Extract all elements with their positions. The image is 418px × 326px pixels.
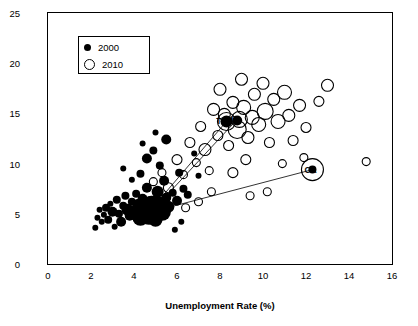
scatter-point-2010 xyxy=(185,138,195,148)
x-tick-label: 2 xyxy=(76,270,106,281)
scatter-point-2010 xyxy=(207,188,215,196)
scatter-point-2000 xyxy=(107,201,113,207)
scatter-point-2010 xyxy=(208,103,220,115)
scatter-point-2010 xyxy=(228,168,238,178)
scatter-point-2000 xyxy=(172,227,178,233)
x-tick-label: 8 xyxy=(205,270,235,281)
scatter-point-2000 xyxy=(161,135,171,145)
scatter-point-2000 xyxy=(112,224,118,230)
scatter-point-2000 xyxy=(92,225,98,231)
scatter-point-2010 xyxy=(163,183,173,193)
scatter-point-2010 xyxy=(236,73,248,85)
annotation-ca: CA xyxy=(304,165,316,175)
scatter-point-2000 xyxy=(116,217,126,227)
filled-circle-icon xyxy=(84,44,91,51)
scatter-point-2010 xyxy=(278,85,292,99)
scatter-point-2010 xyxy=(196,121,206,131)
legend-label-2010: 2010 xyxy=(102,59,123,70)
scatter-point-2000 xyxy=(172,196,182,206)
x-tick-label: 16 xyxy=(377,270,407,281)
scatter-point-2010 xyxy=(278,160,286,168)
scatter-point-2000 xyxy=(113,196,121,204)
scatter-point-2000 xyxy=(191,151,197,157)
scatter-point-2000 xyxy=(121,192,129,200)
scatter-point-2000 xyxy=(129,177,135,183)
scatter-point-2010 xyxy=(362,158,370,166)
scatter-point-2000 xyxy=(120,166,126,172)
x-tick-label: 14 xyxy=(334,270,364,281)
legend-entry-2010: 2010 xyxy=(84,56,123,72)
y-tick-label: 5 xyxy=(0,208,20,219)
chart-legend: 2000 2010 xyxy=(78,36,150,74)
scatter-point-2000 xyxy=(99,219,105,225)
scatter-point-2010 xyxy=(301,122,311,132)
scatter-point-2010 xyxy=(300,154,308,162)
scatter-point-2010 xyxy=(263,188,271,196)
x-tick-label: 12 xyxy=(291,270,321,281)
x-tick-label: 4 xyxy=(119,270,149,281)
y-tick-label: 20 xyxy=(0,58,20,69)
scatter-point-2000 xyxy=(142,154,152,164)
scatter-point-2010 xyxy=(248,88,260,100)
y-tick-label: 0 xyxy=(0,259,20,270)
scatter-point-2010 xyxy=(205,167,213,175)
scatter-point-2010 xyxy=(314,96,324,106)
scatter-point-2010 xyxy=(241,155,251,165)
scatter-point-2000 xyxy=(97,207,103,213)
scatter-point-2010 xyxy=(158,169,166,177)
scatter-point-2010 xyxy=(224,141,234,151)
scatter-point-2000 xyxy=(136,170,144,178)
scatter-point-2000 xyxy=(149,147,157,155)
scatter-point-2010 xyxy=(182,204,190,212)
scatter-point-2010 xyxy=(288,136,298,146)
annotation-tx: TX xyxy=(216,116,227,126)
y-tick-label: 15 xyxy=(0,108,20,119)
scatter-point-2010 xyxy=(192,159,200,167)
scatter-point-2000 xyxy=(184,191,192,199)
scatter-point-2010 xyxy=(294,99,306,111)
x-axis-label: Unemployment Rate (%) xyxy=(47,300,393,311)
legend-entry-2000: 2000 xyxy=(84,39,119,55)
x-tick-label: 10 xyxy=(248,270,278,281)
chart-figure: 2000 2010 SNAP Participation as % of Tot… xyxy=(0,0,418,326)
scatter-point-2010 xyxy=(246,192,254,200)
open-circle-icon xyxy=(84,59,95,70)
x-tick-label: 6 xyxy=(162,270,192,281)
scatter-point-2010 xyxy=(257,77,269,89)
scatter-point-2000 xyxy=(159,176,169,186)
scatter-point-2010 xyxy=(172,155,182,165)
scatter-point-2010 xyxy=(242,131,254,143)
scatter-point-2010 xyxy=(322,79,334,91)
scatter-point-2010 xyxy=(149,178,157,186)
scatter-point-2010 xyxy=(264,138,274,148)
scatter-point-2010 xyxy=(214,83,226,95)
scatter-point-2000 xyxy=(153,129,159,135)
scatter-point-2000 xyxy=(140,141,146,147)
legend-label-2000: 2000 xyxy=(98,42,119,53)
scatter-point-2000 xyxy=(178,219,184,225)
y-tick-label: 10 xyxy=(0,158,20,169)
scatter-point-2010 xyxy=(283,109,295,121)
x-tick-label: 0 xyxy=(33,270,63,281)
scatter-point-2000 xyxy=(196,173,202,179)
scatter-point-2000 xyxy=(104,216,112,224)
y-tick-label: 25 xyxy=(0,8,20,19)
scatter-point-2010 xyxy=(195,198,203,206)
annotation-ny: NY xyxy=(227,114,239,124)
scatter-point-2010 xyxy=(257,103,273,119)
